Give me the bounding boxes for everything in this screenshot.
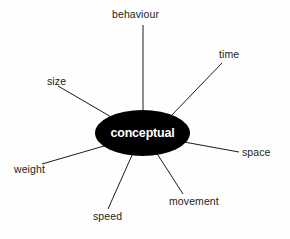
spoke-label-time: time [219,49,239,60]
spoke-label-movement: movement [169,196,219,207]
spoke-label-behaviour: behaviour [112,9,159,20]
spoke-label-size: size [47,76,66,87]
center-node-label: conceptual [95,110,190,156]
spoke-label-speed: speed [93,211,122,222]
spoke-label-space: space [242,147,271,158]
spoke-line-movement [156,152,183,194]
spoke-line-speed [108,153,133,209]
radial-diagram: conceptual behaviourtimesizespaceweights… [0,0,290,239]
spoke-label-weight: weight [14,164,45,175]
spoke-line-space [184,142,239,152]
